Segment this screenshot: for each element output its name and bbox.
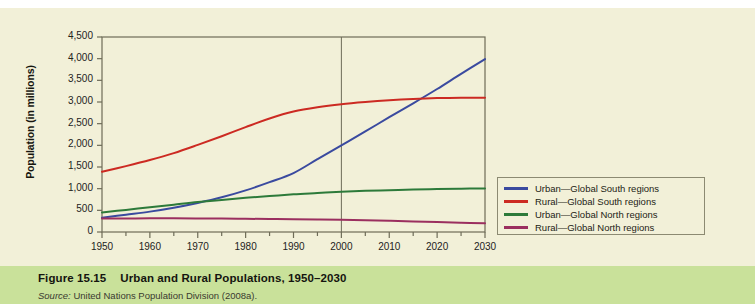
chart-legend: Urban—Global South regionsRural—Global S… xyxy=(497,177,705,235)
legend-color-swatch xyxy=(504,226,528,229)
legend-item-label: Rural—Global South regions xyxy=(535,196,656,207)
source-text: United Nations Population Division (2008… xyxy=(71,290,257,301)
plot-frame xyxy=(102,37,485,232)
legend-item: Rural—Global North regions xyxy=(504,221,704,234)
series-line xyxy=(102,98,485,172)
figure-number: Figure 15.15 xyxy=(38,272,106,284)
legend-item-label: Rural—Global North regions xyxy=(535,222,654,233)
series-line xyxy=(102,188,485,212)
axis-tick-marks xyxy=(97,37,485,238)
legend-item: Rural—Global South regions xyxy=(504,195,704,208)
figure-page: Population (in millions) 05001,0001,5002… xyxy=(0,0,755,304)
legend-color-swatch xyxy=(504,213,528,216)
figure-title-text: Urban and Rural Populations, 1950–2030 xyxy=(120,272,346,284)
legend-item: Urban—Global North regions xyxy=(504,208,704,221)
source-label: Source: xyxy=(38,290,71,301)
figure-caption-title: Figure 15.15Urban and Rural Populations,… xyxy=(38,272,347,284)
legend-item-label: Urban—Global North regions xyxy=(535,209,658,220)
series-lines xyxy=(102,59,485,223)
series-line xyxy=(102,218,485,223)
line-chart: Population (in millions) 05001,0001,5002… xyxy=(0,8,755,266)
legend-item: Urban—Global South regions xyxy=(504,182,704,195)
figure-source-line: Source: United Nations Population Divisi… xyxy=(38,290,257,301)
legend-item-label: Urban—Global South regions xyxy=(535,183,659,194)
legend-color-swatch xyxy=(504,200,528,203)
legend-color-swatch xyxy=(504,187,528,190)
